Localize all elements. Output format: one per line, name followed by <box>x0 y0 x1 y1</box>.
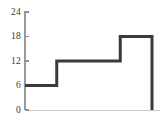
y-tick-label-18: 18 <box>11 31 21 41</box>
y-tick-label-0: 0 <box>16 105 21 115</box>
chart-canvas: 24 18 12 6 0 <box>0 0 164 126</box>
step-chart: 24 18 12 6 0 <box>0 0 164 126</box>
step-function-curve <box>25 37 152 111</box>
y-tick-label-12: 12 <box>11 56 21 66</box>
y-tick-labels: 24 18 12 6 0 <box>11 7 21 115</box>
y-tick-label-6: 6 <box>16 80 21 90</box>
y-tick-label-24: 24 <box>11 7 21 17</box>
